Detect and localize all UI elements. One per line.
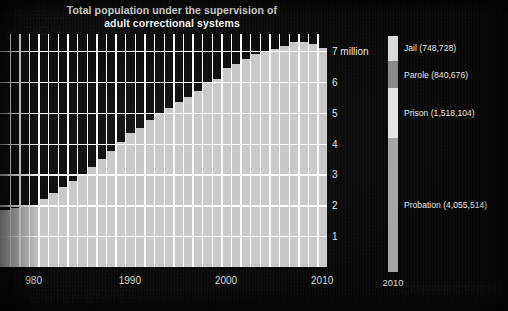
vertical-gridline xyxy=(77,34,78,267)
vertical-gridline xyxy=(212,34,213,267)
y-axis-label-4: 4 xyxy=(332,138,338,149)
x-tick-1980 xyxy=(34,266,35,267)
y-tick-4 xyxy=(0,144,8,145)
vertical-gridline xyxy=(317,34,318,267)
vertical-gridline xyxy=(19,34,20,267)
x-axis-label-1980: 980 xyxy=(25,275,42,286)
page-title-line-1: Total population under the supervision o… xyxy=(36,4,308,17)
bar-2010 xyxy=(317,48,327,267)
y-axis-label-6: 6 xyxy=(332,76,338,87)
vertical-gridline xyxy=(135,34,136,267)
y-axis-label-2: 2 xyxy=(332,200,338,211)
legend-segment-prison[interactable] xyxy=(388,88,398,138)
background-watermark-3: CORRECTIONS xyxy=(400,282,507,297)
vertical-gridline xyxy=(125,34,126,267)
x-axis-label-1990: 1990 xyxy=(119,275,141,286)
horizontal-gridline-5 xyxy=(0,113,327,114)
vertical-gridline xyxy=(202,34,203,267)
y-tick-1 xyxy=(0,236,8,237)
vertical-gridline xyxy=(192,34,193,267)
legend-year-label: 2010 xyxy=(382,277,403,288)
vertical-gridline xyxy=(154,34,155,267)
legend-label-prison: Prison (1,518,104) xyxy=(404,108,475,118)
y-tick-7 xyxy=(0,51,8,52)
x-axis-label-2000: 2000 xyxy=(215,275,237,286)
horizontal-gridline-2 xyxy=(0,205,327,206)
vertical-gridline xyxy=(298,34,299,267)
x-tick-2000 xyxy=(226,266,227,267)
y-tick-2 xyxy=(0,205,8,206)
vertical-gridline xyxy=(87,34,88,267)
vertical-gridline xyxy=(289,34,290,267)
legend-segment-parole[interactable] xyxy=(388,61,398,89)
vertical-gridline xyxy=(231,34,232,267)
vertical-gridline xyxy=(250,34,251,267)
plot-inner xyxy=(0,34,327,267)
horizontal-gridline-6 xyxy=(0,82,327,83)
vertical-gridline xyxy=(221,34,222,267)
y-tick-3 xyxy=(0,174,8,175)
vertical-gridline xyxy=(48,34,49,267)
y-tick-6 xyxy=(0,82,8,83)
vertical-gridline xyxy=(58,34,59,267)
vertical-gridline xyxy=(38,34,39,267)
vertical-gridline xyxy=(10,34,11,267)
vertical-gridline xyxy=(144,34,145,267)
horizontal-gridline-7 xyxy=(0,51,327,52)
x-tick-2010 xyxy=(322,266,323,267)
y-axis-label-7: 7 million xyxy=(332,45,369,56)
horizontal-gridline-1 xyxy=(0,236,327,237)
legend-color-bar[interactable] xyxy=(388,36,398,272)
page-title-line-2: adult correctional systems xyxy=(36,17,308,30)
y-tick-5 xyxy=(0,113,8,114)
x-axis-label-2010: 2010 xyxy=(311,275,333,286)
page-title: Total population under the supervision o… xyxy=(36,4,308,30)
legend-label-jail: Jail (748,728) xyxy=(404,43,456,53)
chart-canvas: PRISON NATION CORRECTIONS UNITED STATES … xyxy=(0,0,508,311)
vertical-gridline xyxy=(240,34,241,267)
vertical-gridline xyxy=(115,34,116,267)
y-axis-label-3: 3 xyxy=(332,169,338,180)
horizontal-gridline-3 xyxy=(0,174,327,175)
vertical-gridline xyxy=(279,34,280,267)
legend-segment-jail[interactable] xyxy=(388,36,398,61)
vertical-gridline xyxy=(173,34,174,267)
x-tick-1990 xyxy=(130,266,131,267)
vertical-gridline xyxy=(67,34,68,267)
vertical-gridline xyxy=(106,34,107,267)
y-axis-label-5: 5 xyxy=(332,107,338,118)
vertical-gridline xyxy=(164,34,165,267)
plot-area xyxy=(0,34,327,267)
vertical-gridline xyxy=(269,34,270,267)
vertical-gridline xyxy=(260,34,261,267)
vertical-gridline xyxy=(29,34,30,267)
horizontal-gridline-4 xyxy=(0,144,327,145)
y-axis-label-1: 1 xyxy=(332,231,338,242)
vertical-gridline xyxy=(308,34,309,267)
vertical-gridline xyxy=(183,34,184,267)
legend-label-probation: Probation (4,055,514) xyxy=(404,200,487,210)
background-watermark-4: UNITED STATES xyxy=(30,292,137,306)
legend-label-parole: Parole (840,676) xyxy=(404,70,468,80)
legend-segment-probation[interactable] xyxy=(388,138,398,272)
vertical-gridline xyxy=(96,34,97,267)
